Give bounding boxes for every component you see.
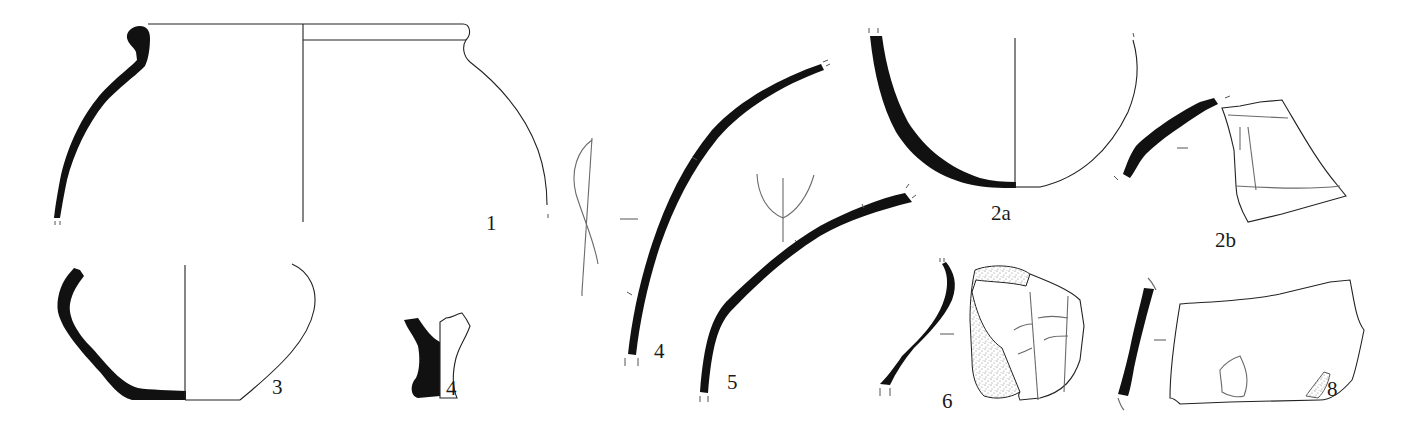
figure-2a-section [870, 36, 1016, 188]
figure-label-1: 1 [486, 211, 497, 235]
figure-label-8: 8 [1327, 377, 1338, 401]
trident-incision-detail [757, 174, 814, 244]
figure-label-6: 5 [727, 370, 738, 394]
figure-7-section [880, 262, 955, 385]
figure-label-2b: 2b [1215, 228, 1236, 252]
figure-1: 1 [54, 24, 548, 235]
figure-1-outline [463, 24, 547, 205]
figure-2a-outline [1040, 40, 1137, 187]
figure-5-incision-side-view [574, 138, 638, 296]
figure-6: 5 [700, 174, 916, 402]
figure-2b: 2b [1114, 96, 1346, 252]
figure-2b-section [1123, 98, 1218, 178]
figure-3-section [57, 268, 186, 400]
figure-label-4: 4 [446, 376, 457, 400]
figure-8: 8 [1118, 278, 1364, 410]
figure-label-3: 3 [272, 375, 283, 399]
figure-4: 4 [404, 313, 470, 400]
figure-3: 3 [57, 264, 315, 400]
figure-7-stippled-surface [970, 266, 1030, 398]
figure-label-2a: 2a [991, 201, 1012, 225]
figure-5: 4 [625, 60, 830, 366]
figure-6-section [700, 193, 912, 393]
figure-7: 6 [880, 258, 1084, 413]
figure-label-7: 6 [942, 389, 953, 413]
pottery-plate: 1 3 4 4 [0, 0, 1405, 432]
figure-1-section [54, 26, 150, 218]
figure-2a: 2a [869, 28, 1137, 225]
figure-4-section [404, 318, 440, 398]
figure-8-section [1118, 288, 1154, 396]
figure-label-5: 4 [654, 339, 665, 363]
